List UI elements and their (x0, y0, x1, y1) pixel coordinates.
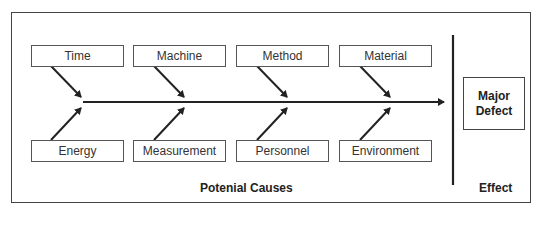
cause-energy: Energy (31, 140, 124, 162)
effect-label: Effect (479, 181, 512, 195)
causes-label: Potenial Causes (200, 181, 293, 195)
cause-method: Method (236, 45, 329, 67)
cause-personnel: Personnel (236, 140, 329, 162)
cause-measurement: Measurement (133, 140, 226, 162)
effect-box: Major Defect (463, 77, 525, 130)
cause-environment: Environment (339, 140, 432, 162)
effect-line2: Defect (476, 104, 513, 119)
cause-time: Time (31, 45, 124, 67)
cause-material: Material (339, 45, 432, 67)
cause-machine: Machine (133, 45, 226, 67)
effect-line1: Major (476, 89, 513, 104)
